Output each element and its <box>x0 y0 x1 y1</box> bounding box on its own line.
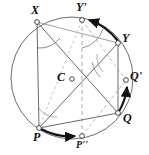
point-X <box>35 20 40 25</box>
label-Y: Y <box>122 32 129 44</box>
label-X: X <box>31 4 39 16</box>
segment-Yp-Qp <box>82 20 126 80</box>
segment-X-Y <box>37 22 118 43</box>
arrow-Y-to-Yp <box>89 20 118 41</box>
arrow-P-to-Pp <box>41 129 75 136</box>
angle-at-P <box>39 108 57 117</box>
point-Q <box>116 111 121 116</box>
point-Yp <box>80 18 85 23</box>
angle-at-X <box>38 38 61 48</box>
arrow-Q-to-Qp <box>118 87 127 113</box>
point-Y <box>116 41 121 46</box>
segment-X-P <box>37 22 39 128</box>
label-Q: Q <box>123 112 132 124</box>
label-P: P <box>33 131 40 143</box>
point-Pp <box>80 134 85 139</box>
geometry-diagram <box>0 0 149 155</box>
segment-X-Q <box>37 22 118 113</box>
segment-Pp-Qp <box>82 80 126 136</box>
label-Q-prime: Q' <box>130 70 142 82</box>
label-center-C: C <box>57 71 65 83</box>
label-Y-prime: Y' <box>76 1 87 13</box>
label-P-double-prime: P'' <box>76 140 88 150</box>
point-center-C <box>70 77 75 82</box>
point-Qp <box>124 78 129 83</box>
